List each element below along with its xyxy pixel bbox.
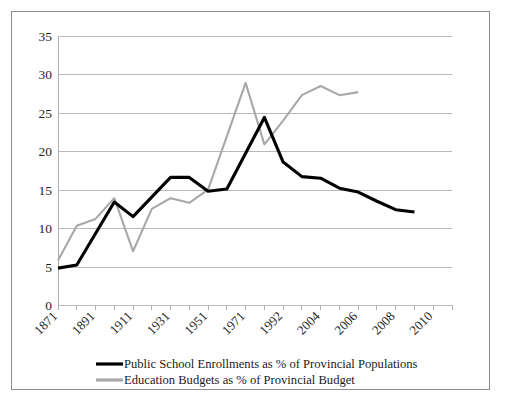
- x-tick-label: 1871: [31, 309, 60, 338]
- chart-figure: 35 30 25 20 15 10 5 0 187118911911193119…: [0, 0, 505, 406]
- x-tick-label: 1931: [144, 309, 173, 338]
- x-tick-label: 1911: [107, 309, 136, 338]
- y-tick-label: 5: [45, 260, 52, 275]
- legend-label-budgets: Education Budgets as % of Provincial Bud…: [124, 373, 355, 387]
- legend-label-enrollments: Public School Enrollments as % of Provin…: [124, 357, 418, 371]
- chart-legend: Public School Enrollments as % of Provin…: [96, 357, 418, 387]
- series-line-public-enrollments: [58, 117, 414, 268]
- x-tick-label: 2010: [406, 309, 435, 338]
- x-tick-label: 1992: [256, 309, 285, 338]
- x-tick-label: 1951: [181, 309, 210, 338]
- gridlines: [58, 36, 452, 305]
- x-tick-label: 1971: [219, 309, 248, 338]
- x-tick-label: 2008: [369, 309, 398, 338]
- line-chart-plot: 35 30 25 20 15 10 5 0 187118911911193119…: [0, 0, 505, 406]
- y-tick-labels: 35 30 25 20 15 10 5 0: [39, 29, 53, 313]
- y-tick-label: 15: [39, 183, 53, 198]
- x-tick-label: 1891: [69, 309, 98, 338]
- y-tick-label: 10: [39, 221, 53, 236]
- x-tick-labels: 1871189119111931195119711992200420062008…: [31, 308, 435, 337]
- series-line-education-budgets: [58, 83, 358, 261]
- y-tick-label: 20: [39, 144, 53, 159]
- y-tick-label: 25: [39, 106, 53, 121]
- x-tick-marks: [58, 305, 452, 310]
- x-tick-label: 2004: [294, 308, 323, 337]
- y-tick-label: 35: [39, 29, 53, 44]
- x-tick-label: 2006: [331, 308, 360, 337]
- y-tick-label: 30: [39, 67, 53, 82]
